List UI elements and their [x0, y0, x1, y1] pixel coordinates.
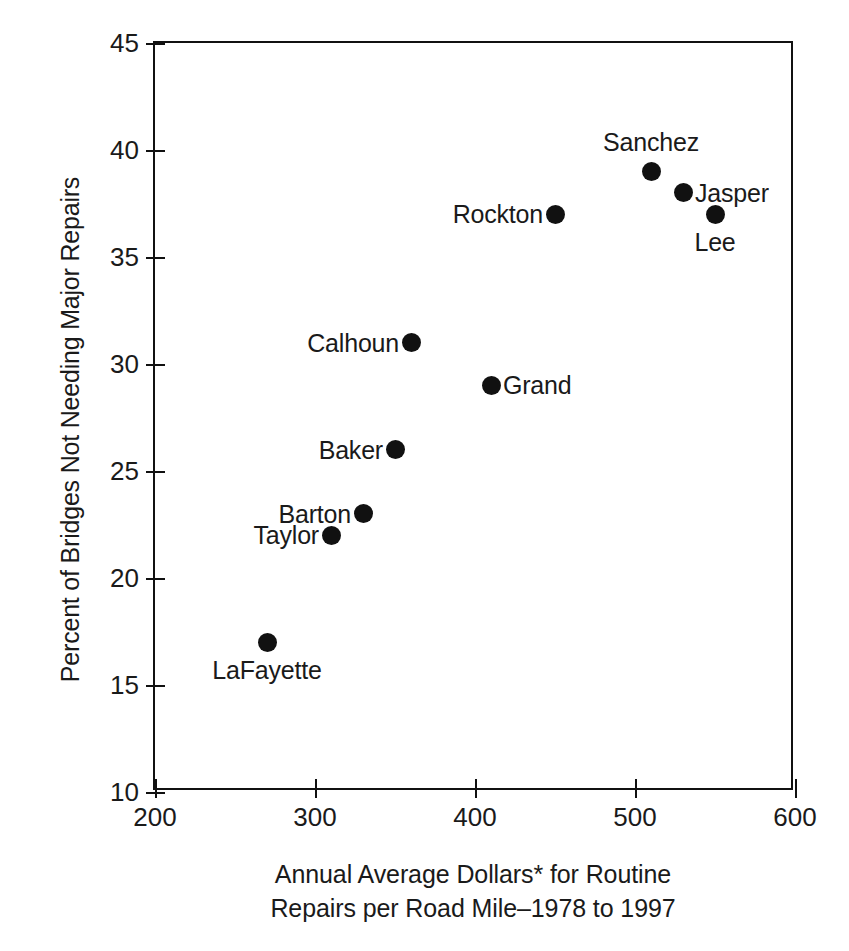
x-tick-label: 600 — [773, 802, 816, 833]
x-tick-mark — [635, 779, 637, 798]
y-tick-mark — [146, 43, 165, 45]
data-point-label: Rockton — [453, 200, 543, 229]
x-axis-title-line-2: Repairs per Road Mile–1978 to 1997 — [153, 892, 793, 926]
y-tick-label: 35 — [110, 242, 139, 273]
y-tick-label: 15 — [110, 670, 139, 701]
data-point[interactable] — [482, 376, 501, 395]
plot-area: 1015202530354045 200300400500600 LaFayet… — [153, 41, 793, 790]
y-axis-title: Percent of Bridges Not Needing Major Rep… — [56, 80, 85, 780]
y-tick-mark — [146, 471, 165, 473]
data-point[interactable] — [706, 205, 725, 224]
data-point-label: Jasper — [695, 178, 769, 207]
y-tick-label: 30 — [110, 349, 139, 380]
data-point[interactable] — [402, 333, 421, 352]
data-point[interactable] — [386, 440, 405, 459]
x-tick-mark — [315, 779, 317, 798]
x-tick-mark — [475, 779, 477, 798]
x-axis-title: Annual Average Dollars* for Routine Repa… — [153, 858, 793, 926]
data-point[interactable] — [642, 162, 661, 181]
y-tick-mark — [146, 685, 165, 687]
y-tick-label: 45 — [110, 28, 139, 59]
x-tick-label: 200 — [133, 802, 176, 833]
data-point[interactable] — [258, 633, 277, 652]
data-point[interactable] — [354, 504, 373, 523]
x-tick-label: 400 — [453, 802, 496, 833]
data-point-label: LaFayette — [212, 656, 321, 685]
data-point-label: Baker — [319, 435, 383, 464]
y-tick-label: 25 — [110, 456, 139, 487]
y-tick-label: 20 — [110, 563, 139, 594]
y-tick-mark — [146, 257, 165, 259]
x-tick-mark — [795, 779, 797, 798]
scatter-chart-figure: Percent of Bridges Not Needing Major Rep… — [0, 0, 849, 951]
y-tick-mark — [146, 364, 165, 366]
data-point-label: Lee — [694, 228, 735, 257]
x-tick-mark — [155, 779, 157, 798]
data-point[interactable] — [546, 205, 565, 224]
data-point-label: Calhoun — [307, 328, 399, 357]
data-point-label: Sanchez — [603, 128, 699, 157]
x-axis-title-line-1: Annual Average Dollars* for Routine — [153, 858, 793, 892]
x-tick-label: 500 — [613, 802, 656, 833]
data-point-label: Grand — [503, 371, 571, 400]
y-tick-label: 40 — [110, 135, 139, 166]
data-point[interactable] — [674, 183, 693, 202]
y-tick-mark — [146, 578, 165, 580]
y-tick-mark — [146, 150, 165, 152]
x-tick-label: 300 — [293, 802, 336, 833]
data-point[interactable] — [322, 526, 341, 545]
data-point-label: Barton — [279, 499, 351, 528]
